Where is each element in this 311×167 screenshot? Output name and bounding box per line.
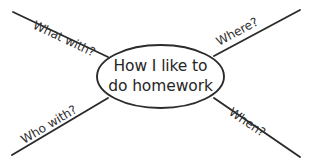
branch-label-who-with: Who with? xyxy=(18,103,79,147)
diagram-svg: How I like to do homework What with? Whe… xyxy=(0,0,311,167)
branch-label-what-with: What with? xyxy=(31,18,98,59)
center-node-line-2: do homework xyxy=(108,77,213,95)
center-node-line-1: How I like to xyxy=(113,57,207,75)
branch-line-who-with xyxy=(12,98,108,155)
branch-label-when: When? xyxy=(226,105,268,140)
mind-map-diagram: How I like to do homework What with? Whe… xyxy=(0,0,311,167)
